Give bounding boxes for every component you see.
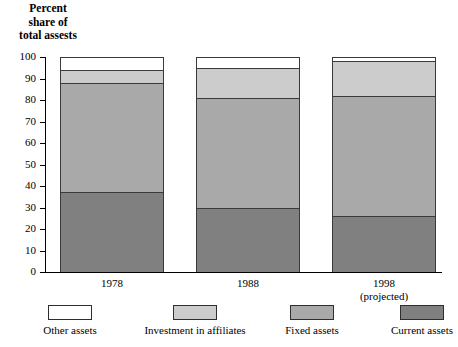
y-axis-tick-label: 10 [0,245,36,256]
bar-segment-investment-in-affiliates [196,68,300,98]
legend-swatch [173,305,217,320]
bar-segment-other-assets [332,57,436,61]
x-axis-label-text: 1998 [332,277,436,290]
legend-swatch [400,305,444,320]
y-axis-tick-label: 50 [0,159,36,170]
bar-segment-fixed-assets [332,96,436,216]
bar-segment-other-assets [60,57,164,70]
x-axis-label-text: 1988 [196,277,300,290]
y-axis-tick-label: 80 [0,94,36,105]
bar-segment-investment-in-affiliates [60,70,164,83]
bar-segment-fixed-assets [60,83,164,193]
bar-segment-current-assets [60,192,164,272]
bar-segment-current-assets [196,208,300,273]
legend-item-current-assets[interactable]: Current assets [352,305,458,337]
y-axis-title-line-2: share of [0,16,96,30]
y-axis-tick-label: 0 [0,266,36,277]
bar-segment-current-assets [332,216,436,272]
x-axis-label-1998: 1998(projected) [332,277,436,303]
bar-segment-investment-in-affiliates [332,61,436,95]
chart-legend: Other assetsInvestment in affiliatesFixe… [0,305,446,347]
y-axis-tick-label: 30 [0,202,36,213]
y-axis-title-line-1: Percent [0,2,96,16]
y-axis-title: Percent share of total assests [0,2,96,43]
bar-segment-fixed-assets [196,98,300,208]
y-axis-tick-label: 20 [0,223,36,234]
y-axis-tick-label: 90 [0,73,36,84]
y-axis-title-line-3: total assests [0,29,96,43]
x-axis-line [40,272,442,273]
plot-area [46,57,442,272]
x-axis-sublabel-text: (projected) [332,290,436,303]
x-axis-label-text: 1978 [60,277,164,290]
legend-swatch [48,305,92,320]
legend-label: Current assets [352,324,458,337]
x-axis-label-1988: 1988 [196,277,300,290]
bar-1998 [332,57,436,272]
y-axis-tick-label: 60 [0,137,36,148]
bar-1978 [60,57,164,272]
bar-segment-other-assets [196,57,300,68]
legend-swatch [290,305,334,320]
y-axis-tick-label: 70 [0,116,36,127]
bar-1988 [196,57,300,272]
y-axis-tick-label: 40 [0,180,36,191]
y-axis-tick-label: 100 [0,51,36,62]
x-axis-label-1978: 1978 [60,277,164,290]
y-axis-tick [40,272,46,273]
